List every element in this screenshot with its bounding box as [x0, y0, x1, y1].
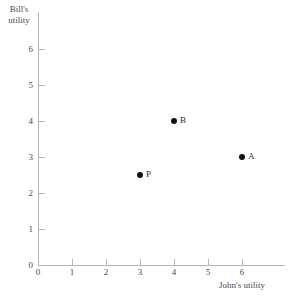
x-tick-mark: [242, 259, 243, 265]
x-tick-mark: [140, 259, 141, 265]
x-tick-label: 0: [31, 267, 45, 277]
x-tick-label: 4: [167, 267, 181, 277]
x-axis-line: [38, 265, 285, 266]
utility-scatter-chart: Bill's utility John's utility 0123456 01…: [0, 0, 292, 299]
data-point-p: [137, 172, 143, 178]
y-tick-label: 5: [19, 80, 33, 90]
x-tick-label: 3: [133, 267, 147, 277]
y-tick-label: 4: [19, 116, 33, 126]
y-tick-mark: [39, 157, 45, 158]
y-tick-mark: [39, 85, 45, 86]
x-tick-mark: [208, 259, 209, 265]
y-tick-mark: [39, 121, 45, 122]
x-tick-label: 5: [201, 267, 215, 277]
x-tick-mark: [174, 259, 175, 265]
y-tick-label: 2: [19, 188, 33, 198]
y-axis-line: [38, 12, 39, 266]
data-point-b: [171, 118, 177, 124]
data-point-label-p: P: [146, 170, 151, 179]
x-tick-mark: [106, 259, 107, 265]
x-tick-label: 1: [65, 267, 79, 277]
y-tick-label: 1: [19, 224, 33, 234]
y-tick-mark: [39, 49, 45, 50]
data-point-label-a: A: [248, 152, 255, 161]
y-tick-label: 3: [19, 152, 33, 162]
x-tick-label: 6: [235, 267, 249, 277]
x-tick-mark: [72, 259, 73, 265]
y-tick-mark: [39, 193, 45, 194]
data-point-label-b: B: [180, 116, 186, 125]
y-tick-label: 6: [19, 44, 33, 54]
x-tick-label: 2: [99, 267, 113, 277]
x-axis-title: John's utility: [196, 280, 288, 291]
y-tick-mark: [39, 229, 45, 230]
data-point-a: [239, 154, 245, 160]
y-axis-title: Bill's utility: [2, 4, 36, 26]
